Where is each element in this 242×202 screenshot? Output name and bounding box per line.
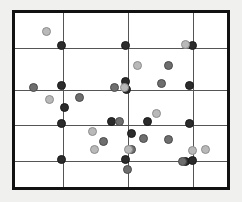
data-point-light-0	[42, 27, 51, 36]
data-point-dark-14	[121, 155, 130, 164]
data-point-dark-9	[143, 117, 152, 126]
data-point-light-3	[120, 83, 129, 92]
data-point-light-1	[181, 40, 190, 49]
data-point-mid-3	[110, 83, 119, 92]
data-point-dark-13	[57, 155, 66, 164]
data-point-dark-3	[57, 81, 66, 90]
data-point-light-6	[88, 127, 97, 136]
data-point-dark-6	[185, 81, 194, 90]
data-point-dark-16	[188, 156, 197, 165]
data-point-mid-11	[178, 157, 187, 166]
data-point-light-4	[45, 95, 54, 104]
plot-frame	[12, 10, 230, 190]
data-point-dark-10	[57, 119, 66, 128]
data-point-light-9	[201, 145, 210, 154]
plot-area	[15, 13, 227, 187]
data-point-dark-0	[57, 41, 66, 50]
data-point-mid-1	[29, 83, 38, 92]
data-point-light-2	[133, 61, 142, 70]
data-point-light-8	[124, 145, 133, 154]
data-point-mid-2	[157, 79, 166, 88]
data-point-dark-12	[127, 129, 136, 138]
data-point-mid-9	[99, 137, 108, 146]
data-point-mid-10	[123, 165, 132, 174]
data-point-mid-0	[164, 61, 173, 70]
data-point-dark-7	[60, 103, 69, 112]
data-point-light-10	[188, 146, 197, 155]
data-point-dark-11	[185, 119, 194, 128]
data-point-light-7	[90, 145, 99, 154]
data-point-mid-6	[139, 134, 148, 143]
data-point-light-5	[152, 109, 161, 118]
data-point-mid-8	[164, 135, 173, 144]
data-point-dark-1	[121, 41, 130, 50]
data-point-mid-5	[115, 117, 124, 126]
scatter-plot-figure	[0, 0, 242, 202]
data-point-mid-4	[75, 93, 84, 102]
